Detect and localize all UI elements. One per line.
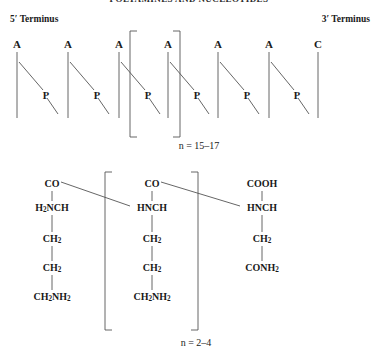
nucleotide-base: A (161, 38, 175, 50)
chem-group: CH2 (43, 233, 62, 245)
nucleotide-base: A (211, 38, 225, 50)
label-n-nucleotide: n = 15–17 (179, 140, 220, 151)
nucleotide-base: C (311, 38, 325, 50)
chem-group: H2NCH (35, 202, 69, 214)
chem-group: CH2 (143, 262, 162, 274)
nucleotide-base: A (262, 38, 276, 50)
nucleotide-base: A (112, 38, 126, 50)
chem-group: CONH2 (245, 262, 279, 274)
phosphate-group: P (40, 90, 52, 101)
phosphate-group: P (191, 90, 203, 101)
chem-group: HNCH (247, 202, 277, 213)
phosphate-group: P (241, 90, 253, 101)
phosphate-group: P (91, 90, 103, 101)
chem-group: CH2 (43, 262, 62, 274)
phosphate-group: P (291, 90, 303, 101)
label-n-polyamine: n = 2–4 (181, 337, 212, 348)
chem-group: CH2NH2 (133, 291, 170, 303)
chem-group: CH2 (253, 233, 272, 245)
phosphate-group: P (142, 90, 154, 101)
chem-group: COOH (247, 178, 278, 189)
chem-group: CO (45, 178, 60, 189)
figure-canvas: POLYAMINES AND NUCLEOTIDES 5′ Terminus 3… (0, 0, 378, 355)
chem-group: HNCH (137, 202, 167, 213)
chem-group: CH2 (143, 233, 162, 245)
chem-group: CH2NH2 (33, 291, 70, 303)
nucleotide-base: A (61, 38, 75, 50)
chem-group: CO (145, 178, 160, 189)
nucleotide-base: A (10, 38, 24, 50)
